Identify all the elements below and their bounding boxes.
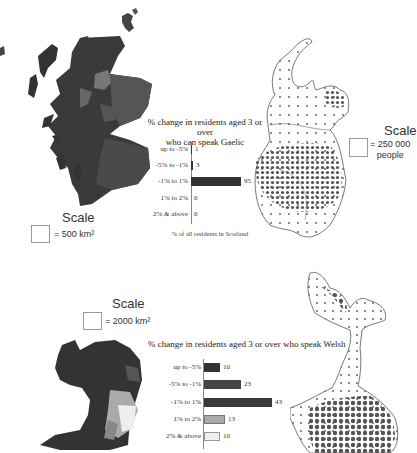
bar-value: 23 bbox=[244, 380, 251, 388]
wales-geo-scale-box bbox=[83, 312, 102, 330]
bar bbox=[191, 145, 192, 154]
scotland-geo-scale-title: Scale bbox=[62, 210, 95, 225]
welsh-bar-row: 2% & above 10 bbox=[155, 431, 230, 441]
bar-label: 1% to 2% bbox=[150, 194, 188, 202]
bar-value: 3 bbox=[196, 161, 200, 169]
wales-map bbox=[0, 320, 150, 450]
bar-value: 13 bbox=[228, 415, 235, 423]
bar bbox=[204, 363, 220, 372]
gaelic-chart-title-line1: % change in residents aged 3 or over bbox=[145, 117, 265, 137]
welsh-bar-row: 1% to 2% 13 bbox=[155, 414, 235, 424]
scotland-geo-scale-value: = 500 km² bbox=[54, 229, 94, 240]
bar-label: -1% to 1% bbox=[150, 177, 188, 185]
gaelic-bar-row: -5% to -1% 3 bbox=[150, 160, 200, 170]
scotland-map bbox=[0, 8, 160, 213]
cartogram-scale-line1: = 250 000 bbox=[370, 139, 410, 150]
bar-label: 2% & above bbox=[155, 432, 201, 440]
bar-value: 10 bbox=[223, 432, 230, 440]
gaelic-bar-row: up to -5% 1 bbox=[150, 144, 199, 154]
scotland-cartogram-scale-title: Scale bbox=[384, 123, 417, 138]
cartogram-scale-line2: people bbox=[370, 150, 410, 161]
wales-geo-scale-title: Scale bbox=[112, 296, 145, 311]
gaelic-bar-row: -1% to 1% 95 bbox=[150, 176, 251, 186]
bar bbox=[191, 161, 193, 170]
bar-label: up to -5% bbox=[155, 363, 201, 371]
scotland-cartogram-scale-value: = 250 000 people bbox=[370, 139, 410, 161]
bar bbox=[204, 398, 272, 407]
welsh-bar-row: -1% to 1% 43 bbox=[155, 397, 282, 407]
bar-label: -5% to -1% bbox=[150, 161, 188, 169]
bar-label: up to -5% bbox=[150, 145, 188, 153]
gaelic-chart-title: % change in residents aged 3 or over who… bbox=[145, 117, 265, 147]
bar bbox=[191, 177, 241, 186]
bar-label: -1% to 1% bbox=[155, 398, 201, 406]
wales-geo-scale-value: = 2000 km² bbox=[105, 316, 150, 327]
bar bbox=[204, 432, 220, 441]
bar-value: 0 bbox=[194, 210, 198, 218]
bar-value: 1 bbox=[195, 145, 199, 153]
welsh-bar-row: up to -5% 10 bbox=[155, 362, 230, 372]
bar-value: 43 bbox=[275, 398, 282, 406]
gaelic-bar-row: 1% to 2% 0 bbox=[150, 193, 198, 203]
wales-cartogram bbox=[290, 268, 412, 453]
bar-label: 2% & above bbox=[150, 210, 188, 218]
gaelic-chart-xlabel: % of all residents in Scotland bbox=[160, 230, 260, 237]
bar-label: -5% to -1% bbox=[155, 380, 201, 388]
gaelic-bar-row: 2% & above 0 bbox=[150, 209, 198, 219]
bar-label: 1% to 2% bbox=[155, 415, 201, 423]
bar bbox=[204, 415, 225, 424]
bar-value: 10 bbox=[223, 363, 230, 371]
bar bbox=[204, 380, 241, 389]
scotland-geo-scale-box bbox=[31, 225, 50, 243]
welsh-bar-row: -5% to -1% 23 bbox=[155, 379, 251, 389]
scotland-cartogram-scale-box bbox=[349, 138, 368, 157]
bar-value: 0 bbox=[194, 194, 198, 202]
